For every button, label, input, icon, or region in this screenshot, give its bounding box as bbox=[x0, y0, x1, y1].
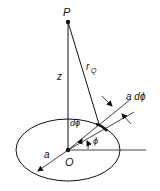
label-phi: ϕ bbox=[93, 136, 98, 146]
phi-angle-arc bbox=[87, 141, 88, 149]
point-p-dot bbox=[66, 20, 70, 24]
label-dphi: dϕ bbox=[70, 118, 80, 128]
label-r-subscript: Q bbox=[91, 67, 97, 75]
ring-charge-diagram: P O z r Q a dϕ dϕ ϕ a bbox=[0, 0, 160, 191]
label-z: z bbox=[56, 71, 62, 82]
arc-width-arrow-2 bbox=[122, 114, 131, 124]
origin-dot bbox=[66, 148, 70, 152]
label-r: r bbox=[86, 61, 90, 72]
arc-width-arrow-1 bbox=[102, 96, 112, 106]
label-origin: O bbox=[65, 156, 74, 168]
ring-element bbox=[96, 124, 107, 131]
label-radius: a bbox=[44, 149, 50, 160]
label-p: P bbox=[63, 6, 71, 18]
radius-arrow bbox=[38, 150, 68, 171]
label-arc-length: a dϕ bbox=[126, 91, 146, 102]
